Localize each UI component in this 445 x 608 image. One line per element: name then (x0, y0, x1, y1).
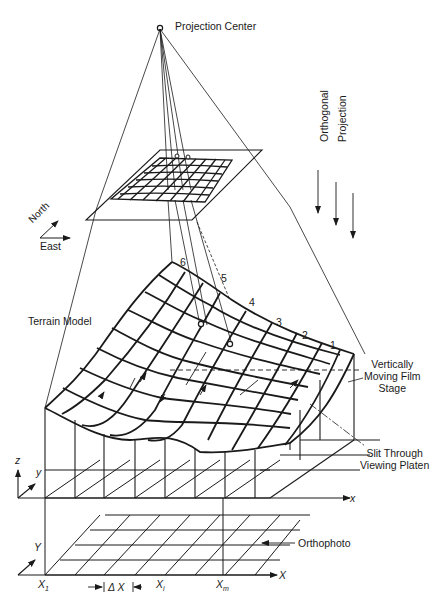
orthogonal-arrows (318, 170, 353, 238)
xm-label: Xm (216, 578, 229, 595)
profile-number-5: 5 (221, 272, 227, 284)
delta-x-label: Δ X (108, 581, 125, 593)
ortho-y-axis-label: Y (34, 541, 41, 553)
north-east-compass (40, 221, 70, 238)
slit-line-1: Slit Through (360, 447, 429, 459)
model-base-grid (45, 440, 380, 498)
xm-subscript: m (223, 585, 229, 592)
film-stage-line-3: Stage (364, 382, 421, 394)
model-z-axis-label: z (15, 454, 20, 466)
ortho-projection-diagram (0, 0, 445, 608)
film-stage-label: Vertically Moving Film Stage (364, 358, 421, 394)
profile-number-1: 1 (330, 339, 336, 351)
model-y-axis-label: y (36, 466, 41, 478)
profile-number-4: 4 (249, 296, 255, 308)
projection-center-label: Projection Center (175, 20, 256, 32)
profile-number-2: 2 (302, 329, 308, 341)
projection-label: Projection (336, 95, 348, 142)
film-stage-line-2: Moving Film (364, 370, 421, 382)
ortho-x-axis-label: X (279, 569, 286, 581)
profile-number-3: 3 (276, 316, 282, 328)
model-axes (18, 470, 350, 498)
xi-symbol: X (156, 578, 163, 590)
photo-plate-grid (111, 158, 232, 202)
x1-symbol: X (38, 578, 45, 590)
orthogonal-label: Orthogonal (318, 90, 330, 142)
orthophoto-label: Orthophoto (298, 537, 351, 549)
xi-label: Xi (156, 578, 165, 595)
x1-subscript: 1 (45, 585, 49, 592)
model-x-axis-label: x (350, 492, 355, 504)
x1-label: X1 (38, 578, 49, 595)
xm-symbol: X (216, 578, 223, 590)
slit-label: Slit Through Viewing Platen (360, 447, 429, 471)
east-label: East (40, 240, 61, 252)
film-stage-line-1: Vertically (364, 358, 421, 370)
profile-number-6: 6 (180, 256, 186, 268)
terrain-model-surface (45, 262, 354, 452)
orthophoto-grid (45, 498, 310, 575)
terrain-model-label: Terrain Model (28, 315, 92, 327)
xi-subscript: i (163, 585, 165, 592)
slit-line-2: Viewing Platen (360, 459, 429, 471)
